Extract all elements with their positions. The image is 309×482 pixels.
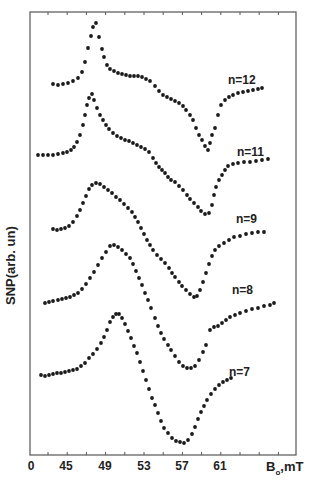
data-point <box>231 93 235 97</box>
data-point <box>250 307 254 311</box>
data-point <box>112 69 116 73</box>
data-point <box>80 287 84 291</box>
data-point <box>136 74 140 78</box>
data-point <box>102 185 106 189</box>
data-point <box>128 256 132 260</box>
data-point <box>99 341 103 345</box>
data-point <box>220 173 224 177</box>
data-point <box>181 104 185 108</box>
data-point <box>80 70 84 74</box>
data-point <box>206 148 210 152</box>
data-point <box>268 303 272 307</box>
data-point <box>213 387 217 391</box>
data-point <box>217 244 221 248</box>
data-point <box>84 282 88 286</box>
data-point <box>127 139 131 143</box>
data-point <box>83 361 87 365</box>
data-point <box>186 438 190 442</box>
data-point <box>56 298 60 302</box>
data-point <box>204 343 208 347</box>
data-point <box>214 185 218 189</box>
data-point <box>139 145 143 149</box>
data-point <box>207 211 211 215</box>
data-point <box>67 369 71 373</box>
data-point <box>51 153 55 157</box>
data-point <box>111 131 115 135</box>
data-point <box>88 276 92 280</box>
data-point <box>143 291 147 295</box>
data-point <box>231 162 235 166</box>
data-point <box>169 97 173 101</box>
data-point <box>95 347 99 351</box>
data-point <box>167 266 171 270</box>
data-point <box>223 98 227 102</box>
data-point <box>68 295 72 299</box>
data-point <box>185 366 189 370</box>
data-point <box>216 113 220 117</box>
data-point <box>173 354 177 358</box>
data-point <box>188 113 192 117</box>
data-point <box>43 374 47 378</box>
data-point <box>104 123 108 127</box>
data-point <box>200 138 204 142</box>
data-point <box>166 343 170 347</box>
data-point <box>226 164 230 168</box>
data-point <box>39 373 43 377</box>
x-tick-label-53: 53 <box>137 459 150 473</box>
data-point <box>238 234 242 238</box>
data-point <box>199 410 203 414</box>
data-point <box>196 417 200 421</box>
data-point <box>137 276 141 280</box>
data-point <box>78 208 82 212</box>
series-n11 <box>36 92 270 216</box>
data-point <box>244 232 248 236</box>
data-point <box>180 284 184 288</box>
data-point <box>83 113 87 117</box>
x-tick-label-57: 57 <box>175 459 188 473</box>
data-point <box>201 350 205 354</box>
data-point <box>203 144 207 148</box>
data-point <box>71 79 75 83</box>
data-point <box>181 364 185 368</box>
y-axis-label: SNP(arb. un) <box>3 226 18 305</box>
data-point <box>213 248 217 252</box>
data-point <box>163 261 167 265</box>
data-point <box>51 82 55 86</box>
data-point <box>116 71 120 75</box>
data-point <box>163 171 167 175</box>
data-point <box>72 293 76 297</box>
data-point <box>188 197 192 201</box>
data-point <box>210 254 214 258</box>
data-point <box>205 398 209 402</box>
series-label-n7: n=7 <box>229 365 250 379</box>
data-point <box>191 118 195 122</box>
data-point <box>181 188 185 192</box>
data-point <box>241 90 245 94</box>
data-point <box>223 168 227 172</box>
data-point <box>72 145 76 149</box>
x-tick-label-49: 49 <box>98 459 111 473</box>
data-point <box>97 35 101 39</box>
data-point <box>159 257 163 261</box>
data-point <box>173 99 177 103</box>
data-point <box>153 316 157 320</box>
data-point <box>91 352 95 356</box>
data-point <box>190 432 194 436</box>
data-point <box>212 193 216 197</box>
data-point <box>212 325 216 329</box>
data-point <box>201 280 205 284</box>
data-point <box>43 301 47 305</box>
data-point <box>182 441 186 445</box>
data-point <box>266 157 270 161</box>
data-point <box>193 364 197 368</box>
data-point <box>51 299 55 303</box>
data-point <box>244 309 248 313</box>
data-point <box>75 214 79 218</box>
data-point <box>120 72 124 76</box>
data-point <box>246 89 250 93</box>
data-point <box>71 368 75 372</box>
data-point <box>177 360 181 364</box>
data-point <box>60 297 64 301</box>
data-point <box>110 191 114 195</box>
data-point <box>55 371 59 375</box>
